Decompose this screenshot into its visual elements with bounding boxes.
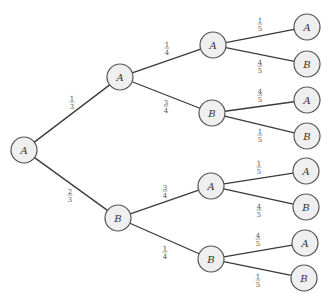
fraction-numerator: 1 [163,245,167,253]
fraction-numerator: 1 [258,128,262,136]
probability-fraction: 15 [257,160,262,176]
probability-fraction: 23 [68,188,73,204]
fraction-denominator: 4 [163,192,168,200]
tree-node-b: B [105,205,131,231]
fraction-numerator: 1 [256,273,260,281]
tree-node-a: A [107,64,133,90]
probability-tree-diagram: 1323143434141545451515454515 AABABABABAB… [0,0,331,301]
tree-node-a: A [292,230,318,256]
probability-fraction: 34 [163,184,168,200]
probability-fraction: 45 [258,88,263,104]
probability-fraction: 13 [70,95,75,111]
fraction-numerator: 4 [257,203,262,211]
tree-node-b: B [291,265,317,291]
node-label: B [113,213,121,224]
probability-fraction: 14 [165,41,170,57]
node-label: B [299,273,307,284]
tree-node-a: A [11,137,37,163]
fraction-numerator: 1 [258,17,262,25]
fraction-denominator: 5 [258,96,262,104]
fraction-denominator: 5 [256,240,260,248]
node-label: A [302,95,310,106]
node-label: A [300,238,308,249]
fraction-denominator: 5 [258,67,262,75]
branch-line [34,85,109,142]
tree-node-a: A [294,87,320,113]
fraction-denominator: 4 [165,49,170,57]
node-label: B [207,108,215,119]
fraction-numerator: 3 [164,99,168,107]
probability-fraction: 15 [256,273,261,289]
tree-node-a: A [198,173,224,199]
tree-node-b: B [198,246,224,272]
node-label: A [206,181,214,192]
node-label: A [302,22,310,33]
tree-node-a: A [200,32,226,58]
fraction-numerator: 2 [68,188,72,196]
fraction-numerator: 4 [258,88,263,96]
fraction-numerator: 4 [256,232,261,240]
node-label: B [301,202,309,213]
node-label: A [19,145,27,156]
tree-node-b: B [294,123,320,149]
probability-fraction: 15 [258,17,263,33]
probability-fraction: 45 [258,59,263,75]
edge-probability-labels: 1323143434141545451515454515 [68,17,263,289]
tree-node-b: B [294,51,320,77]
fraction-denominator: 5 [257,211,261,219]
node-label: B [206,254,214,265]
node-label: A [115,72,123,83]
node-label: A [208,40,216,51]
fraction-denominator: 5 [256,281,260,289]
fraction-denominator: 3 [70,103,74,111]
probability-fraction: 34 [164,99,169,115]
fraction-numerator: 1 [165,41,169,49]
tree-node-b: B [199,100,225,126]
fraction-numerator: 1 [257,160,261,168]
tree-node-b: B [293,194,319,220]
fraction-denominator: 4 [163,253,168,261]
fraction-denominator: 4 [164,107,169,115]
fraction-denominator: 5 [258,136,262,144]
fraction-denominator: 5 [258,25,262,33]
node-label: B [302,59,310,70]
probability-fraction: 45 [256,232,261,248]
fraction-denominator: 5 [257,168,261,176]
fraction-numerator: 1 [70,95,74,103]
probability-fraction: 45 [257,203,262,219]
node-label: A [301,166,309,177]
probability-fraction: 15 [258,128,263,144]
tree-node-a: A [294,14,320,40]
fraction-numerator: 4 [258,59,263,67]
fraction-denominator: 3 [68,196,72,204]
node-label: B [302,131,310,142]
probability-fraction: 14 [163,245,168,261]
tree-node-a: A [293,158,319,184]
fraction-numerator: 3 [163,184,167,192]
